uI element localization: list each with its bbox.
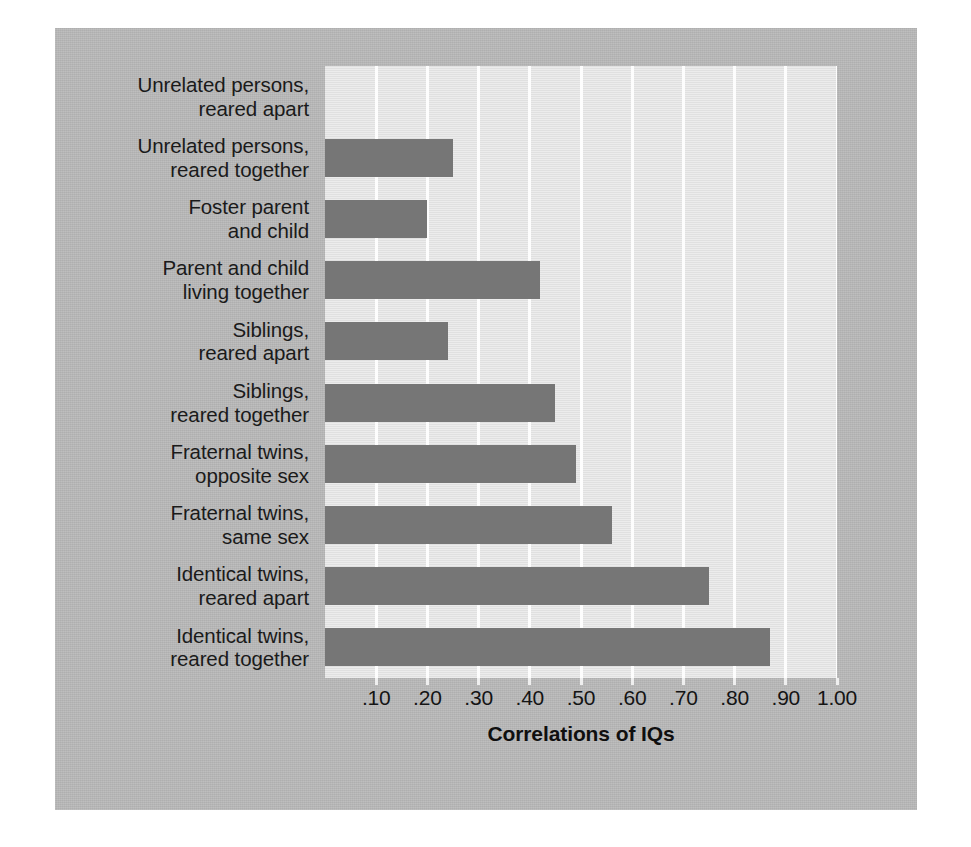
bar	[325, 261, 540, 299]
category-label-line: and child	[228, 219, 309, 243]
category-label-line: Unrelated persons,	[138, 73, 309, 97]
category-label: Unrelated persons, reared together	[55, 127, 321, 188]
category-label-line: reared together	[170, 647, 309, 671]
category-label-line: Identical twins,	[176, 562, 309, 586]
bar	[325, 384, 555, 422]
category-label: Fraternal twins, same sex	[55, 494, 321, 555]
axis-tick-label: .10	[362, 686, 391, 710]
axis-tick	[836, 678, 839, 685]
axis-tick	[733, 678, 736, 685]
category-label-line: same sex	[222, 525, 309, 549]
axis-tick-label: 1.00	[817, 686, 857, 710]
category-label-line: reared apart	[199, 97, 309, 121]
bar	[325, 200, 427, 238]
category-label: Siblings, reared apart	[55, 311, 321, 372]
axis-tick	[375, 678, 378, 685]
axis-tick-label: .40	[516, 686, 545, 710]
category-label-line: Unrelated persons,	[138, 134, 309, 158]
category-label-line: Identical twins,	[176, 624, 309, 648]
figure-root: Unrelated persons, reared apart Unrelate…	[0, 0, 971, 847]
axis-title: Correlations of IQs	[325, 722, 837, 746]
bar-row	[325, 127, 837, 188]
category-label-line: reared together	[170, 403, 309, 427]
axis-tick-label: .30	[464, 686, 493, 710]
axis-tick-label: .50	[567, 686, 596, 710]
bar-row	[325, 617, 837, 678]
category-label-line: Siblings,	[232, 379, 309, 403]
bar-row	[325, 372, 837, 433]
value-axis: .10.20.30.40.50.60.70.80.901.00	[325, 678, 837, 714]
bar-row	[325, 433, 837, 494]
bar	[325, 445, 576, 483]
category-label: Identical twins, reared together	[55, 617, 321, 678]
axis-tick	[784, 678, 787, 685]
bar	[325, 628, 770, 666]
plot-area	[325, 66, 837, 678]
axis-tick-label: .80	[720, 686, 749, 710]
bar-row	[325, 66, 837, 127]
axis-tick-label: .20	[413, 686, 442, 710]
bar-chart: Unrelated persons, reared apart Unrelate…	[55, 28, 917, 810]
category-label-line: Foster parent	[188, 195, 309, 219]
bar	[325, 506, 612, 544]
category-label-line: reared apart	[199, 341, 309, 365]
bar-series	[325, 66, 837, 678]
bar-row	[325, 188, 837, 249]
category-label-line: Fraternal twins,	[170, 501, 309, 525]
category-label: Fraternal twins, opposite sex	[55, 433, 321, 494]
category-label-line: opposite sex	[195, 464, 309, 488]
axis-tick	[426, 678, 429, 685]
bar-row	[325, 556, 837, 617]
axis-tick-label: .90	[772, 686, 801, 710]
category-label: Identical twins, reared apart	[55, 556, 321, 617]
axis-tick	[580, 678, 583, 685]
category-axis-labels: Unrelated persons, reared apart Unrelate…	[55, 66, 321, 678]
axis-tick-label: .60	[618, 686, 647, 710]
bar-row	[325, 311, 837, 372]
category-label: Foster parent and child	[55, 188, 321, 249]
bar-row	[325, 494, 837, 555]
axis-tick	[682, 678, 685, 685]
bar	[325, 567, 709, 605]
axis-tick	[477, 678, 480, 685]
bar	[325, 322, 448, 360]
category-label-line: Parent and child	[162, 256, 309, 280]
category-label-line: reared apart	[199, 586, 309, 610]
bar-row	[325, 250, 837, 311]
category-label-line: reared together	[170, 158, 309, 182]
category-label: Siblings, reared together	[55, 372, 321, 433]
axis-tick-label: .70	[669, 686, 698, 710]
category-label: Parent and child living together	[55, 250, 321, 311]
category-label-line: living together	[183, 280, 309, 304]
bar	[325, 139, 453, 177]
category-label-line: Fraternal twins,	[170, 440, 309, 464]
axis-tick	[528, 678, 531, 685]
axis-tick	[631, 678, 634, 685]
category-label-line: Siblings,	[232, 318, 309, 342]
category-label: Unrelated persons, reared apart	[55, 66, 321, 127]
